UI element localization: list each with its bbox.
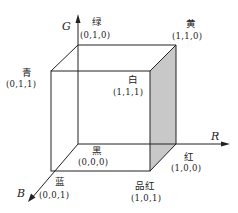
vertex-yellow-name: 黄 xyxy=(186,18,196,29)
r-axis-label: R xyxy=(210,130,219,143)
vertex-green-name: 绿 xyxy=(92,16,102,27)
vertex-black-name: 黑 xyxy=(92,145,102,156)
vertex-yellow-coord: (1,1,0) xyxy=(172,31,202,41)
shaded-right-face xyxy=(150,45,176,171)
edge-green-cyan xyxy=(51,45,78,71)
vertex-cyan-coord: (0,1,1) xyxy=(6,79,36,89)
vertex-black-coord: (0,0,0) xyxy=(78,157,108,167)
b-axis-label: B xyxy=(16,187,25,200)
rgb-cube-diagram: G R B 绿 (0,1,0) 黄 (1,1,0) 青 (0,1,1) 白 (1… xyxy=(0,0,238,213)
g-axis-arrow-icon xyxy=(76,14,81,23)
r-axis-arrow-icon xyxy=(221,142,230,147)
vertex-blue-name: 蓝 xyxy=(55,176,65,187)
front-face xyxy=(51,71,150,171)
vertex-magenta-name: 品红 xyxy=(135,180,155,191)
vertex-magenta-coord: (1,0,1) xyxy=(131,193,161,203)
vertex-green-coord: (0,1,0) xyxy=(80,30,110,40)
g-axis-label: G xyxy=(62,20,71,33)
vertex-blue-coord: (0,0,1) xyxy=(39,190,69,200)
vertex-red-name: 红 xyxy=(184,151,194,162)
vertex-red-coord: (1,0,0) xyxy=(171,163,201,173)
vertex-white-name: 白 xyxy=(128,74,138,85)
vertex-cyan-name: 青 xyxy=(22,67,32,78)
vertex-white-coord: (1,1,1) xyxy=(113,87,143,97)
